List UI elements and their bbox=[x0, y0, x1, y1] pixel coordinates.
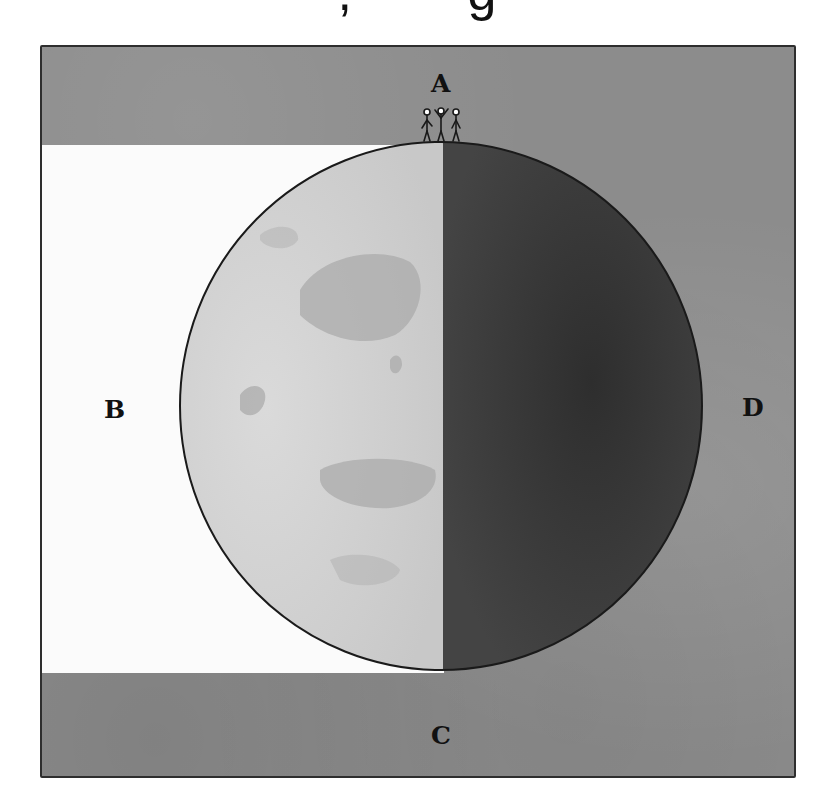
label-b: B bbox=[104, 397, 125, 422]
globe-lit-half bbox=[170, 130, 444, 690]
globe-dark-half bbox=[443, 130, 713, 690]
observers-group bbox=[422, 108, 460, 141]
globe bbox=[170, 130, 713, 690]
observer-figure-2 bbox=[435, 108, 448, 141]
observer-figure-3 bbox=[452, 109, 460, 141]
label-a: A bbox=[431, 71, 450, 96]
label-d: D bbox=[742, 395, 764, 420]
label-c: C bbox=[431, 723, 451, 748]
observer-figure-1 bbox=[422, 109, 432, 141]
